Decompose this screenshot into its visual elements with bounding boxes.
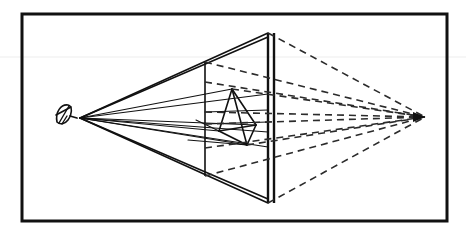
diagram-canvas — [0, 0, 466, 232]
perspective-diagram — [0, 0, 466, 232]
